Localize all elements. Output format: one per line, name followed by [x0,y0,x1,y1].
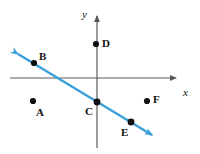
point-e [128,119,135,126]
point-c [94,99,101,106]
point-b [31,60,37,66]
point-label-a: A [36,107,44,118]
point-label-e: E [121,127,128,138]
coordinate-plane-figure: y x A B C D E F [0,0,200,154]
point-label-c: C [85,106,93,117]
coordinate-plane-canvas [0,0,200,154]
point-label-b: B [39,51,46,62]
point-f [144,98,150,104]
point-d [93,41,99,47]
x-axis-label: x [183,87,188,98]
point-a [30,98,36,104]
point-label-f: F [153,94,160,105]
point-label-d: D [102,38,110,49]
y-axis-label: y [82,9,87,20]
